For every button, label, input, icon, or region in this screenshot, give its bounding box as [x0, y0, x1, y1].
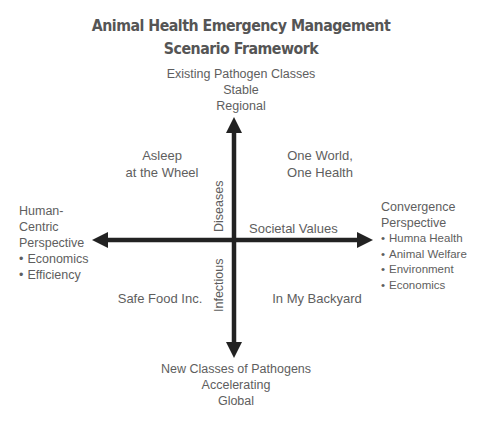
- left-bullet-item: Efficiency: [19, 267, 89, 283]
- left-heading-line-3: Perspective: [19, 235, 89, 251]
- quadrant-bottom-right-line-1: In My Backyard: [262, 290, 372, 307]
- right-axis-label: Convergence Perspective Humna Health Ani…: [381, 199, 467, 293]
- bottom-axis-line-1: New Classes of Pathogens: [121, 361, 351, 377]
- quadrant-bottom-left-line-1: Safe Food Inc.: [105, 290, 215, 307]
- left-arrowhead-icon: [92, 232, 108, 248]
- left-bullet-list: Economics Efficiency: [19, 251, 89, 283]
- left-bullet-item: Economics: [19, 251, 89, 267]
- vertical-label-diseases: Diseases: [212, 181, 226, 232]
- horizontal-label-societal-values: Societal Values: [249, 221, 338, 237]
- right-bullet-item: Humna Health: [381, 231, 467, 247]
- quadrant-top-left-line-2: at the Wheel: [112, 164, 212, 181]
- vertical-label-infectious: Infectious: [212, 258, 226, 312]
- down-arrowhead-icon: [226, 342, 242, 358]
- left-heading-line-1: Human-: [19, 203, 89, 219]
- up-arrowhead-icon: [226, 117, 242, 133]
- quadrant-top-left: Asleep at the Wheel: [112, 147, 212, 181]
- bottom-axis-line-2: Accelerating: [121, 377, 351, 393]
- right-bullet-list: Humna Health Animal Welfare Environment …: [381, 231, 467, 293]
- right-bullet-item: Animal Welfare: [381, 247, 467, 263]
- right-arrowhead-icon: [357, 232, 373, 248]
- right-bullet-item: Economics: [381, 278, 467, 294]
- quadrant-top-right-line-1: One World,: [265, 147, 375, 164]
- quadrant-bottom-left: Safe Food Inc.: [105, 290, 215, 307]
- quadrant-top-right-line-2: One Health: [265, 164, 375, 181]
- quadrant-top-left-line-1: Asleep: [112, 147, 212, 164]
- left-axis-label: Human- Centric Perspective Economics Eff…: [19, 203, 89, 283]
- right-bullet-item: Environment: [381, 262, 467, 278]
- quadrant-bottom-right: In My Backyard: [262, 290, 372, 307]
- bottom-axis-label: New Classes of Pathogens Accelerating Gl…: [121, 361, 351, 409]
- right-heading-line-2: Perspective: [381, 215, 467, 231]
- right-heading-line-1: Convergence: [381, 199, 467, 215]
- left-heading-line-2: Centric: [19, 219, 89, 235]
- bottom-axis-line-3: Global: [121, 393, 351, 409]
- quadrant-top-right: One World, One Health: [265, 147, 375, 181]
